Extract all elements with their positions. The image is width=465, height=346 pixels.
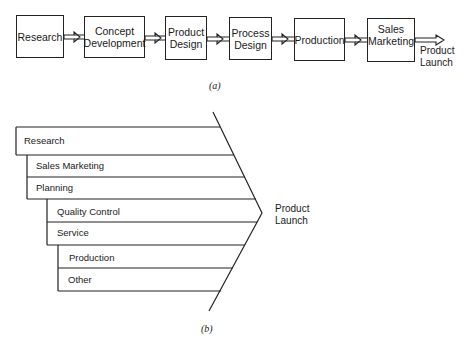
caption-b: (b) [201, 323, 213, 334]
spine-line [209, 112, 262, 311]
bar-quality-control: Quality Control [57, 206, 120, 217]
bar-planning: Planning [36, 182, 73, 193]
bar-sales-marketing: Sales Marketing [36, 160, 104, 171]
bar-service: Service [57, 227, 89, 238]
bar-production: Production [69, 252, 114, 263]
bar-research: Research [24, 135, 65, 146]
fishbone-lines [0, 0, 465, 346]
outcome-product-launch-b: Product Launch [275, 203, 309, 227]
bar-other: Other [68, 274, 92, 285]
